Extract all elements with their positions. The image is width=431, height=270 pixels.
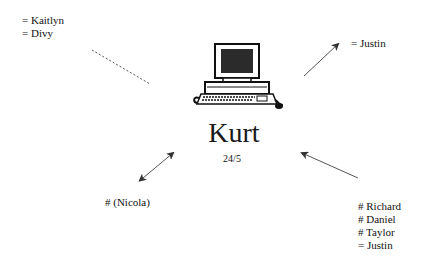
group-top-right: = Justin [351, 37, 386, 50]
arrow-connector-top-right [304, 44, 338, 76]
computer-icon [193, 42, 283, 112]
group-item: # Richard [358, 200, 401, 213]
group-item: = Justin [351, 37, 386, 50]
group-item: = Justin [358, 239, 401, 252]
group-item: = Kaitlyn [22, 14, 64, 27]
dashed-connector-top-left [92, 50, 150, 84]
double-arrow-connector-bottom-left [143, 153, 173, 178]
arrow-connector-bottom-right [302, 153, 358, 178]
group-item: = Divy [22, 27, 64, 40]
group-item: # (Nicola) [105, 196, 150, 209]
center-node-name: Kurt [192, 118, 276, 148]
group-item: # Daniel [358, 213, 401, 226]
group-bottom-left: # (Nicola) [105, 196, 150, 209]
group-bottom-right: # Richard # Daniel # Taylor = Justin [358, 200, 401, 252]
center-node-date: 24/5 [212, 153, 252, 165]
group-item: # Taylor [358, 226, 401, 239]
group-top-left: = Kaitlyn = Divy [22, 14, 64, 40]
